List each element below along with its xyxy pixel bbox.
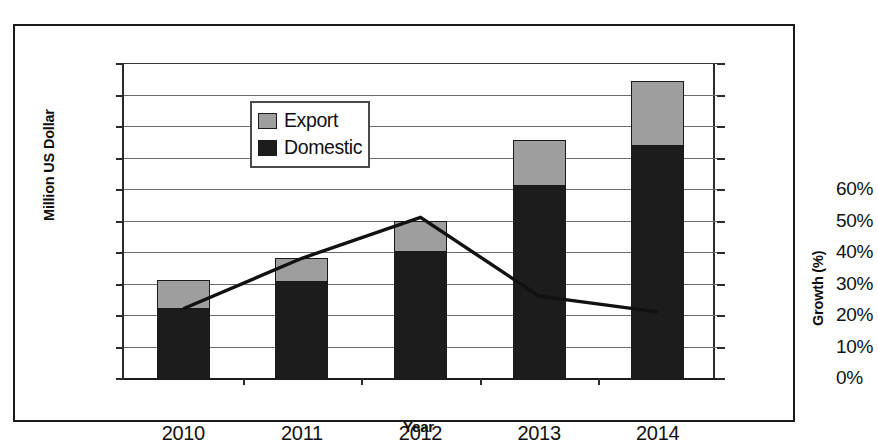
x-axis-tick-label: 2012 <box>361 423 481 443</box>
gridline <box>124 378 717 380</box>
x-axis-tick <box>243 378 245 385</box>
secondary-y-axis-tick-label: 60% <box>836 179 878 198</box>
secondary-y-axis-tick <box>717 95 725 97</box>
legend-swatch-icon <box>258 140 277 156</box>
y-axis-tick <box>116 126 124 128</box>
y-axis-tick <box>116 378 124 380</box>
secondary-y-axis-tick <box>717 315 725 317</box>
y-axis-tick <box>116 95 124 97</box>
secondary-y-axis-tick <box>717 189 725 191</box>
y-axis-tick <box>116 347 124 349</box>
secondary-y-axis-tick <box>717 378 725 380</box>
secondary-y-axis-tick <box>717 221 725 223</box>
legend-swatch-icon <box>258 113 277 129</box>
y-axis-tick <box>116 315 124 317</box>
y-axis-tick <box>116 158 124 160</box>
y-axis-tick <box>116 284 124 286</box>
y-axis-tick <box>116 252 124 254</box>
figure-border: Million US Dollar Growth (%) Year 050100… <box>13 24 795 422</box>
x-axis-tick <box>598 378 600 385</box>
x-axis-tick <box>361 378 363 385</box>
secondary-y-axis-tick <box>717 347 725 349</box>
secondary-y-axis-tick <box>717 63 725 65</box>
plot-area: 050100150200250300350400450500 0%10%20%3… <box>122 63 715 378</box>
y-axis-tick <box>116 189 124 191</box>
secondary-y-axis-tick-label: 20% <box>836 305 878 324</box>
x-axis-tick-label: 2011 <box>242 423 362 443</box>
secondary-y-axis-tick <box>717 126 725 128</box>
x-axis-tick-label: 2014 <box>598 423 718 443</box>
secondary-y-axis-tick <box>717 284 725 286</box>
secondary-y-axis-tick-label: 50% <box>836 211 878 230</box>
secondary-y-axis-tick <box>717 158 725 160</box>
secondary-y-axis-title: Growth (%) <box>810 251 826 326</box>
x-axis-tick <box>480 378 482 385</box>
y-axis-tick <box>116 63 124 65</box>
legend-item-label: Domestic <box>284 138 362 158</box>
secondary-y-axis-tick-label: 0% <box>836 368 878 387</box>
chart-legend: ExportDomestic <box>250 101 370 168</box>
legend-item: Export <box>258 107 362 134</box>
secondary-y-axis-tick-label: 10% <box>836 337 878 356</box>
y-axis-tick <box>116 221 124 223</box>
legend-item: Domestic <box>258 134 362 161</box>
secondary-y-axis-tick-label: 40% <box>836 242 878 261</box>
growth-line-series <box>124 63 717 378</box>
legend-item-label: Export <box>284 111 338 131</box>
secondary-y-axis-tick <box>717 252 725 254</box>
secondary-y-axis-tick-label: 30% <box>836 274 878 293</box>
x-axis-tick-label: 2013 <box>479 423 599 443</box>
y-axis-title: Million US Dollar <box>41 109 57 221</box>
x-axis-tick-label: 2010 <box>123 423 243 443</box>
growth-line-path <box>183 217 657 312</box>
